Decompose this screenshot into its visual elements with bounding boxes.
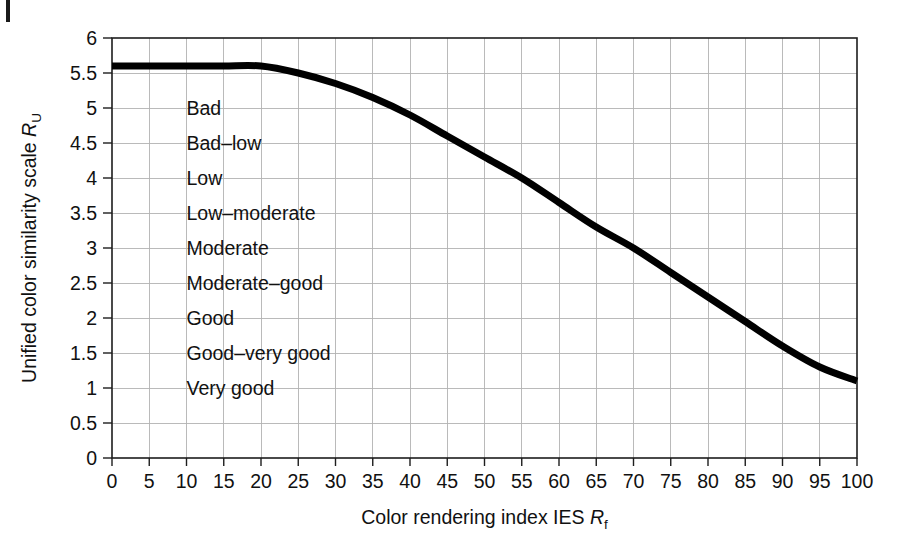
- y-tick-label: 1.5: [70, 342, 97, 364]
- x-tick-label: 90: [772, 470, 794, 492]
- y-axis-tick-labels: 00.511.522.533.544.555.56: [70, 27, 97, 469]
- x-tick-label: 35: [362, 470, 384, 492]
- y-tick-label: 3.5: [70, 202, 97, 224]
- y-tick-label: 4: [86, 167, 97, 189]
- x-tick-label: 10: [176, 470, 198, 492]
- y-axis-title: Unified color similarity scale RU: [18, 113, 44, 383]
- x-tick-label: 15: [213, 470, 235, 492]
- x-tick-label: 5: [144, 470, 155, 492]
- x-tick-label: 80: [697, 470, 719, 492]
- annotation-label: Good–very good: [187, 342, 331, 364]
- axis-title-symbol: R: [18, 123, 40, 137]
- annotation-label: Moderate: [187, 237, 269, 259]
- x-tick-label: 50: [474, 470, 496, 492]
- chart-figure: 0510152025303540455055606570758085909510…: [0, 0, 900, 554]
- plot-canvas: 0510152025303540455055606570758085909510…: [0, 0, 900, 554]
- annotation-label: Very good: [187, 377, 275, 399]
- x-tick-label: 45: [436, 470, 458, 492]
- y-tick-label: 2: [86, 307, 97, 329]
- axis-title-subscript: f: [604, 517, 608, 532]
- annotation-label: Bad–low: [187, 132, 263, 154]
- x-tick-label: 100: [841, 470, 874, 492]
- y-tick-label: 0.5: [70, 412, 97, 434]
- x-tick-label: 65: [585, 470, 607, 492]
- axis-title-lead: Unified color similarity scale: [18, 137, 40, 383]
- y-tick-label: 5.5: [70, 62, 97, 84]
- annotation-label: Low–moderate: [187, 202, 316, 224]
- x-axis-tick-labels: 0510152025303540455055606570758085909510…: [107, 470, 874, 492]
- annotation-label: Moderate–good: [187, 272, 324, 294]
- x-axis-title: Color rendering index IES Rf: [361, 506, 608, 532]
- x-tick-label: 75: [660, 470, 682, 492]
- y-axis-tickmarks: [103, 38, 112, 458]
- x-tick-label: 40: [399, 470, 421, 492]
- y-tick-label: 1: [86, 377, 97, 399]
- y-tick-label: 2.5: [70, 272, 97, 294]
- annotation-label: Good: [187, 307, 235, 329]
- axis-title-symbol: R: [590, 506, 604, 528]
- x-tick-label: 60: [548, 470, 570, 492]
- annotation-label: Low: [187, 167, 224, 189]
- x-tick-label: 95: [809, 470, 831, 492]
- annotation-label: Bad: [187, 97, 222, 119]
- y-tick-label: 6: [86, 27, 97, 49]
- x-tick-label: 55: [511, 470, 533, 492]
- y-tick-label: 0: [86, 447, 97, 469]
- x-tick-label: 70: [623, 470, 645, 492]
- x-tick-label: 25: [287, 470, 309, 492]
- y-tick-label: 3: [86, 237, 97, 259]
- x-axis-tickmarks: [112, 458, 857, 466]
- y-tick-label: 5: [86, 97, 97, 119]
- x-tick-label: 85: [734, 470, 756, 492]
- axis-title-lead: Color rendering index IES: [361, 506, 590, 528]
- axis-title-subscript: U: [29, 113, 44, 123]
- y-tick-label: 4.5: [70, 132, 97, 154]
- x-tick-label: 20: [250, 470, 272, 492]
- x-tick-label: 30: [325, 470, 347, 492]
- x-tick-label: 0: [107, 470, 118, 492]
